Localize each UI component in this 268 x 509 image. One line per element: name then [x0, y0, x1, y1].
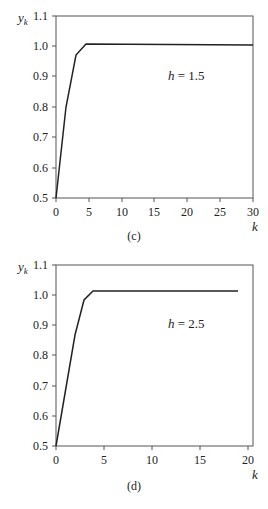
svg-text:0.5: 0.5 — [33, 439, 48, 453]
svg-text:1.1: 1.1 — [33, 9, 48, 23]
svg-text:5: 5 — [101, 453, 107, 467]
chart-c: 0.5 0.6 0.7 0.8 0.9 1.0 1.1 0 5 10 15 20… — [0, 0, 268, 250]
y-axis-title: yk — [16, 10, 29, 27]
svg-text:0.6: 0.6 — [33, 409, 48, 423]
svg-text:5: 5 — [86, 205, 92, 219]
svg-text:15: 15 — [148, 205, 160, 219]
svg-text:0.9: 0.9 — [33, 69, 48, 83]
svg-text:1.0: 1.0 — [33, 288, 48, 302]
x-axis-labels: 0 5 10 15 20 25 30 — [53, 205, 259, 219]
svg-text:10: 10 — [146, 453, 158, 467]
series-line — [56, 291, 238, 446]
x-ticks — [56, 446, 248, 450]
svg-text:30: 30 — [247, 205, 259, 219]
annotation: h = 1.5 — [168, 68, 205, 83]
annotation: h = 2.5 — [168, 316, 205, 331]
svg-text:0.5: 0.5 — [33, 191, 48, 205]
svg-text:0: 0 — [53, 453, 59, 467]
svg-text:0.7: 0.7 — [33, 130, 48, 144]
svg-text:1.1: 1.1 — [33, 258, 48, 272]
y-axis-labels: 0.5 0.6 0.7 0.8 0.9 1.0 1.1 — [33, 9, 48, 205]
chart-d: 0.5 0.6 0.7 0.8 0.9 1.0 1.1 0 5 10 15 20… — [0, 250, 268, 509]
y-axis-title: yk — [16, 259, 29, 276]
svg-text:0: 0 — [53, 205, 59, 219]
x-axis-labels: 0 5 10 15 20 — [53, 453, 254, 467]
plot-area-frame — [56, 16, 253, 198]
y-ticks — [52, 16, 56, 198]
svg-text:0.8: 0.8 — [33, 348, 48, 362]
svg-text:20: 20 — [242, 453, 254, 467]
y-axis-labels: 0.5 0.6 0.7 0.8 0.9 1.0 1.1 — [33, 258, 48, 453]
svg-text:25: 25 — [214, 205, 226, 219]
x-axis-title: k — [252, 467, 258, 482]
svg-text:0.6: 0.6 — [33, 161, 48, 175]
plot-area-frame — [56, 265, 253, 446]
svg-text:20: 20 — [181, 205, 193, 219]
x-ticks — [56, 198, 253, 202]
svg-text:1.0: 1.0 — [33, 39, 48, 53]
panel-label: (d) — [127, 479, 141, 493]
y-ticks — [52, 265, 56, 446]
series-line — [56, 44, 253, 198]
svg-text:0.7: 0.7 — [33, 379, 48, 393]
svg-text:10: 10 — [116, 205, 128, 219]
x-axis-title: k — [252, 219, 258, 234]
svg-text:0.9: 0.9 — [33, 318, 48, 332]
svg-text:15: 15 — [194, 453, 206, 467]
svg-text:0.8: 0.8 — [33, 100, 48, 114]
panel-label: (c) — [127, 229, 140, 243]
